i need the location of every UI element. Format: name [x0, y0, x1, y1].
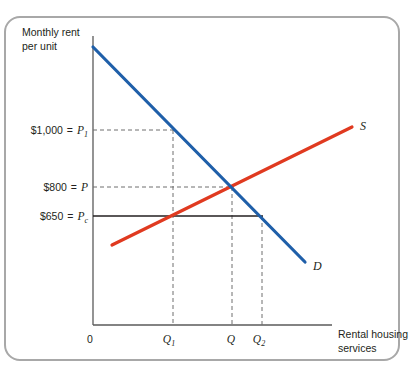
supply-demand-chart: S D Monthly rent per unit Rental housing…	[0, 0, 416, 377]
x-tick-label-q: Q	[227, 333, 236, 345]
figure-root: S D Monthly rent per unit Rental housing…	[0, 0, 416, 377]
y-tick-pc-amount: $650	[40, 210, 64, 222]
x-tick-label-q1: Q1	[163, 333, 175, 348]
x-tick-label-q2: Q2	[253, 333, 265, 348]
y-tick-pc-var: P	[76, 210, 84, 222]
y-tick-p1-sub: 1	[84, 130, 88, 139]
y-tick-p1-equals: =	[67, 124, 73, 136]
axes-group	[93, 36, 332, 325]
x-axis-title-line2: services	[338, 342, 377, 354]
y-tick-p-equals: =	[71, 181, 77, 193]
x-axis-title-line1: Rental housing	[338, 328, 408, 340]
y-axis-title-line2: per unit	[22, 40, 57, 52]
x-tick-q1-sub: 1	[171, 339, 175, 348]
y-tick-label-p1: $1,000=P1	[31, 124, 88, 139]
y-axis-title-line1: Monthly rent	[22, 26, 80, 38]
x-tick-q-var: Q	[227, 333, 236, 345]
y-tick-labels-group: $1,000=P1 $800=P $650=Pc	[31, 124, 89, 225]
x-tick-labels-group: 0 Q1 Q Q2	[87, 333, 265, 348]
y-tick-p-var: P	[80, 181, 88, 193]
y-tick-pc-sub: c	[84, 216, 88, 225]
y-tick-label-pc: $650=Pc	[40, 210, 89, 225]
demand-curve-label: D	[312, 259, 322, 273]
y-tick-p1-var: P	[76, 124, 84, 136]
demand-curve	[93, 47, 305, 262]
y-tick-label-p: $800=P	[43, 181, 88, 193]
y-tick-pc-equals: =	[67, 210, 73, 222]
y-tick-p-amount: $800	[43, 181, 67, 193]
supply-curve-label: S	[360, 119, 366, 133]
x-tick-label-origin: 0	[87, 333, 93, 345]
guide-lines-group	[93, 130, 262, 325]
y-tick-p1-amount: $1,000	[31, 124, 63, 136]
x-tick-q2-sub: 2	[261, 339, 265, 348]
